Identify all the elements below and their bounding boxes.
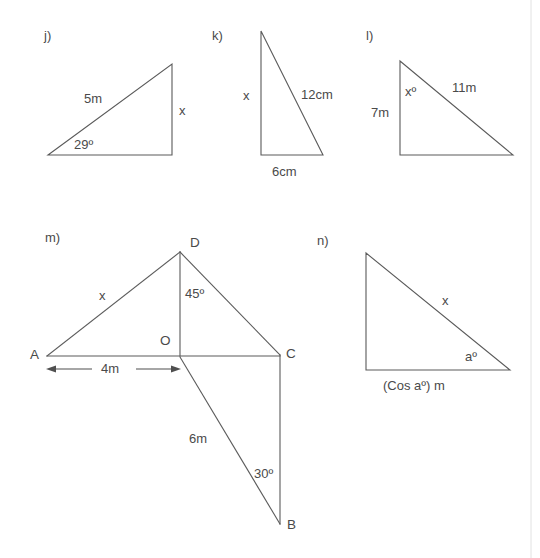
figure-k-vertical-label: x [243,89,250,102]
figure-m-vertex-d-label: D [190,236,200,250]
figure-j-angle-label: 29º [74,138,93,151]
figure-l-triangle [400,61,513,155]
figure-l-vertical-label: 7m [371,106,389,119]
figure-j-hypotenuse-label: 5m [84,92,102,105]
figure-m-compound [46,252,280,524]
figure-m-segment-DC [180,252,280,355]
figure-m-vertex-a-label: A [30,348,39,362]
figure-m-vertex-b-label: B [287,518,296,532]
figure-l-outline [400,61,513,155]
figure-m-angle-b-label: 30º [254,467,273,480]
dimension-arrowhead-right [171,366,181,373]
figure-m-vertex-o-label: O [160,334,171,348]
figure-n-angle-label: aº [465,350,477,363]
figure-k-hypotenuse-label: 12cm [301,88,333,101]
figure-n-hypotenuse-label: x [442,294,449,307]
figure-j-outline [48,64,172,155]
figure-n-part-label: n) [317,234,329,247]
figure-k-base-label: 6cm [272,165,297,178]
dimension-arrowhead-left [46,366,56,373]
figure-n-base-label: (Cos aº) m [383,379,445,392]
figure-j-vertical-label: x [179,104,186,117]
figure-m-vertex-c-label: C [286,347,296,361]
figure-m-dimension-label: 4m [101,362,119,375]
figure-m-side-ad-label: x [99,289,106,302]
worksheet-page: j) 5m x 29º k) x 12cm 6cm l) xº 11m 7m m… [0,0,540,558]
figure-n-triangle [366,253,510,370]
figure-n-outline [366,253,510,370]
figure-m-side-ob-label: 6m [189,432,207,445]
figure-l-angle-label: xº [405,85,416,98]
figure-l-hypotenuse-label: 11m [452,81,476,94]
figure-k-part-label: k) [212,29,223,42]
figure-m-angle-d-label: 45º [185,287,204,300]
figure-j-triangle [48,64,172,155]
figure-m-part-label: m) [45,231,60,244]
figure-l-part-label: l) [366,29,373,42]
figure-j-part-label: j) [44,29,51,42]
